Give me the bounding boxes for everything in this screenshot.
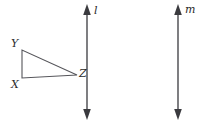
vertex-label-Z: Z [78,67,87,80]
figure-canvas: Y X Z l m [0,0,208,124]
line-label-l: l [94,4,98,17]
line-l [83,4,91,120]
vertex-label-X: X [10,78,20,91]
line-label-m: m [185,3,195,16]
triangle-XYZ [22,50,77,78]
vertex-label-Y: Y [11,37,20,50]
triangle-XYZ-outline [22,50,77,78]
line-l-arrowhead-up [83,4,91,15]
line-m-arrowhead-up [174,4,182,15]
line-m [174,4,182,120]
line-l-arrowhead-down [83,109,91,120]
geometry-figure: Y X Z l m [0,0,208,124]
line-m-arrowhead-down [174,109,182,120]
